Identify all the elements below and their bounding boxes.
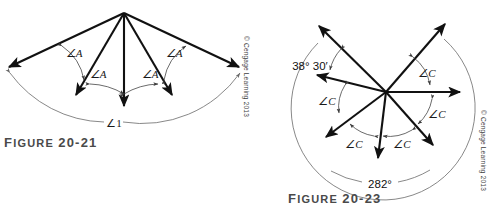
figure-20-23-caption: FIGURE 20-23 bbox=[288, 189, 382, 207]
angle-arc-c-5 bbox=[339, 85, 345, 113]
angle-arc-c-4 bbox=[350, 124, 374, 136]
copyright-credit-right: © Cengage Learning 2013 bbox=[480, 110, 487, 191]
caption-lead-2023: F bbox=[288, 191, 297, 206]
known-angle-label: 38° 30′ bbox=[292, 60, 328, 72]
ray-upper-right bbox=[386, 24, 445, 92]
ray-upper-left bbox=[319, 26, 386, 92]
known-angle-indicator bbox=[330, 49, 341, 70]
total-leader-left bbox=[331, 171, 362, 182]
angle-label-c-4: ∠C bbox=[345, 138, 363, 150]
ray-group-2023 bbox=[317, 24, 460, 158]
ray-left bbox=[317, 75, 386, 92]
angle-label-c-1: ∠C bbox=[418, 67, 436, 79]
figure-page: ∠A ∠A ∠A ∠A ∠1 FIGURE 20-21 © Cengage Le… bbox=[0, 0, 501, 209]
angle-label-c-5: ∠C bbox=[318, 95, 336, 107]
angle-label-c-3: ∠C bbox=[393, 138, 411, 150]
total-leader-right bbox=[398, 170, 430, 182]
known-angle-arc bbox=[330, 49, 341, 70]
angle-arc-c-3 bbox=[383, 130, 412, 136]
caption-rest-2023: IGURE bbox=[297, 193, 342, 205]
angle-label-c-2: ∠C bbox=[428, 108, 446, 120]
caption-number-2023: 20-23 bbox=[342, 191, 381, 206]
ray-down bbox=[378, 92, 386, 158]
figure-20-23-drawing: 38° 30′ 282° ∠C ∠C ∠C ∠C ∠C bbox=[0, 0, 501, 209]
